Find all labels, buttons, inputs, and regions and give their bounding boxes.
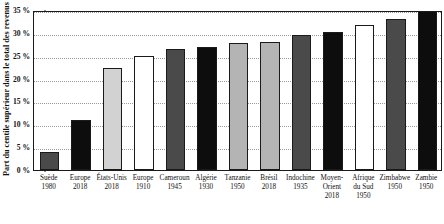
bar [323, 32, 343, 170]
x-axis-tick-label: Moyen-Orient2018 [316, 174, 347, 202]
x-axis-tick-year: 1945 [159, 183, 190, 192]
x-axis-tick-label: Tanzanie1950 [222, 174, 253, 192]
x-axis-tick-year: 1930 [190, 183, 221, 192]
x-axis-tick-name: Tanzanie [222, 174, 253, 183]
x-axis-tick-year: 1910 [127, 183, 158, 192]
x-axis-tick-label: Suède1980 [33, 174, 64, 192]
bar [355, 25, 375, 170]
bar [260, 42, 280, 170]
x-axis-tick-year: 2018 [253, 183, 284, 192]
y-axis-tick-10: 10 % [13, 121, 30, 129]
bar-chart-figure: Part du centile supérieur dans le total … [0, 0, 444, 224]
bar-series [34, 12, 441, 170]
bar [229, 43, 249, 170]
x-axis-tick-label: Europe1910 [127, 174, 158, 192]
bar [103, 68, 123, 170]
bar [197, 47, 217, 170]
x-axis-tick-label: Zimbabwe1950 [379, 174, 410, 192]
x-axis-tick-year: 2018 [96, 183, 127, 192]
bar [71, 120, 91, 170]
x-axis-tick-year: 1950 [411, 183, 442, 192]
y-axis-tick-20: 20 % [13, 76, 30, 84]
x-axis-tick-name: Brésil [253, 174, 284, 183]
x-axis-tick-year: 1980 [33, 183, 64, 192]
x-axis-tick-label: Indochine1935 [285, 174, 316, 192]
y-axis-title-text: Part du centile supérieur dans le total … [3, 2, 11, 176]
bar [166, 49, 186, 170]
bar [386, 19, 406, 170]
bar [40, 152, 60, 170]
y-axis-tick-labels: 0 %5 %10 %15 %20 %25 %30 %35 % [12, 11, 32, 171]
x-axis-tick-name: Indochine [285, 174, 316, 183]
x-axis-tick-name: Moyen-Orient [316, 174, 347, 192]
x-axis-tick-year: 1950 [222, 183, 253, 192]
y-axis-tick-25: 25 % [13, 53, 30, 61]
bar [292, 35, 312, 170]
x-axis-tick-name: Europe [64, 174, 95, 183]
y-axis-tick-30: 30 % [13, 30, 30, 38]
x-axis-tick-label: Brésil2018 [253, 174, 284, 192]
x-axis-tick-name: Cameroun [159, 174, 190, 183]
x-axis-tick-name: Zimbabwe [379, 174, 410, 183]
bar [418, 11, 438, 170]
x-axis-tick-label: Algérie1930 [190, 174, 221, 192]
x-axis-tick-year: 2018 [64, 183, 95, 192]
x-axis-tick-year: 1950 [379, 183, 410, 192]
bar [134, 56, 154, 170]
plot-area [33, 11, 442, 171]
x-axis-tick-labels: Suède1980Europe2018États-Unis2018Europe1… [33, 174, 442, 224]
x-axis-tick-name: Algérie [190, 174, 221, 183]
y-axis-tick-0: 0 % [17, 167, 30, 175]
y-axis-tick-15: 15 % [13, 99, 30, 107]
x-axis-tick-label: Zambie1950 [411, 174, 442, 192]
x-axis-tick-name: Zambie [411, 174, 442, 183]
x-axis-tick-label: Afriquedu Sud1950 [348, 174, 379, 202]
x-axis-tick-name: Afriquedu Sud [348, 174, 379, 192]
x-axis-tick-year: 2018 [316, 192, 347, 201]
x-axis-tick-name: Europe [127, 174, 158, 183]
x-axis-tick-year: 1935 [285, 183, 316, 192]
x-axis-tick-name: États-Unis [96, 174, 127, 183]
y-axis-tick-5: 5 % [17, 144, 30, 152]
y-axis-tick-35: 35 % [13, 7, 30, 15]
x-axis-tick-label: Europe2018 [64, 174, 95, 192]
x-axis-tick-name: Suède [33, 174, 64, 183]
x-axis-tick-label: États-Unis2018 [96, 174, 127, 192]
x-axis-tick-label: Cameroun1945 [159, 174, 190, 192]
x-axis-tick-year: 1950 [348, 192, 379, 201]
